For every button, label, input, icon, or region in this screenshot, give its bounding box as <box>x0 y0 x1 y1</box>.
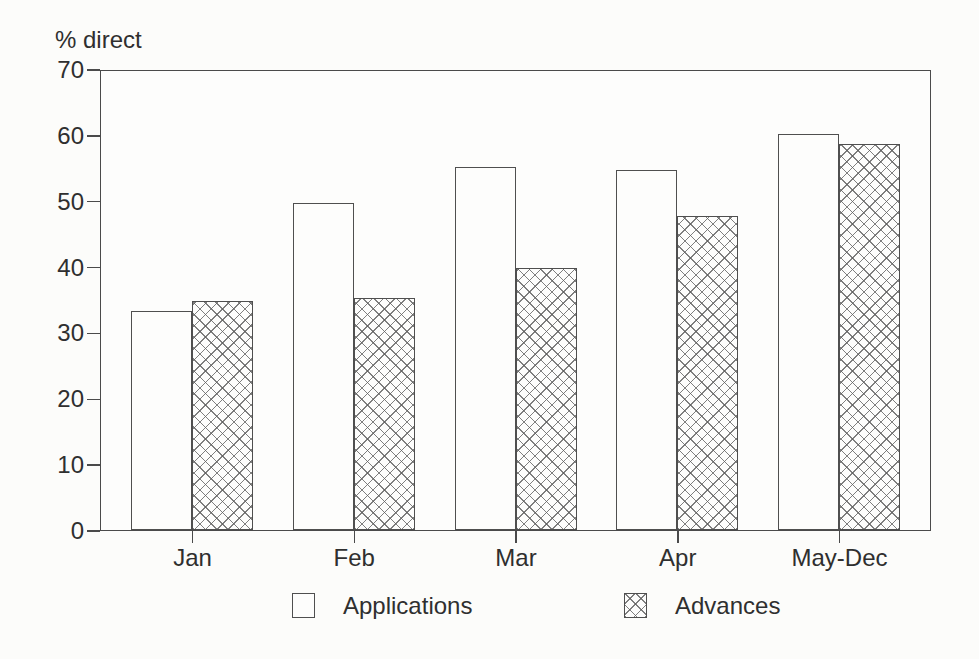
plot-area <box>100 70 931 531</box>
bar-applications-mar <box>455 167 516 530</box>
bar-applications-feb <box>293 203 354 530</box>
bar-advances-mar <box>516 268 577 530</box>
legend-swatch-applications <box>292 593 315 618</box>
y-axis-title: % direct <box>55 27 142 53</box>
y-tick-label-70: 70 <box>0 57 84 83</box>
x-tick-jan <box>192 531 194 543</box>
y-tick-10 <box>87 464 100 466</box>
y-tick-50 <box>87 201 100 203</box>
y-tick-label-50: 50 <box>0 189 84 215</box>
bar-applications-may-dec <box>778 134 839 530</box>
x-tick-label-mar: Mar <box>436 545 596 571</box>
y-tick-label-40: 40 <box>0 255 84 281</box>
legend-swatch-advances <box>624 593 647 618</box>
bar-advances-apr <box>677 216 738 530</box>
y-tick-0 <box>87 530 100 532</box>
bar-chart-figure: % direct 010203040506070JanFebMarAprMay-… <box>0 0 979 659</box>
bar-applications-jan <box>131 311 192 530</box>
y-tick-label-20: 20 <box>0 386 84 412</box>
bar-advances-may-dec <box>839 144 900 530</box>
bar-applications-apr <box>616 170 677 530</box>
x-tick-mar <box>515 531 517 543</box>
y-tick-20 <box>87 399 100 401</box>
y-tick-label-10: 10 <box>0 452 84 478</box>
y-tick-label-60: 60 <box>0 123 84 149</box>
bar-advances-feb <box>354 298 415 530</box>
y-tick-40 <box>87 267 100 269</box>
y-tick-label-0: 0 <box>0 518 84 544</box>
y-tick-label-30: 30 <box>0 320 84 346</box>
x-tick-feb <box>354 531 356 543</box>
x-tick-label-may-dec: May-Dec <box>760 545 920 571</box>
y-tick-60 <box>87 135 100 137</box>
x-tick-apr <box>677 531 679 543</box>
y-tick-70 <box>87 69 100 71</box>
legend-label-advances: Advances <box>675 593 780 619</box>
legend-label-applications: Applications <box>343 593 472 619</box>
x-tick-may-dec <box>839 531 841 543</box>
bar-advances-jan <box>192 301 253 530</box>
x-tick-label-feb: Feb <box>274 545 434 571</box>
x-tick-label-jan: Jan <box>113 545 273 571</box>
x-tick-label-apr: Apr <box>598 545 758 571</box>
y-tick-30 <box>87 333 100 335</box>
